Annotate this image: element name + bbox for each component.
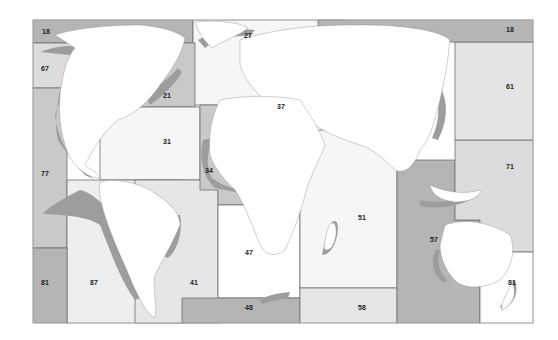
area-label: 41 xyxy=(190,279,198,286)
fishing-areas-map: 18 67 21 27 18 61 31 37 77 34 71 51 57 4… xyxy=(0,0,558,340)
area-label: 18 xyxy=(42,28,50,35)
area-label: 48 xyxy=(245,304,253,311)
area-label: 18 xyxy=(506,26,514,33)
area-label: 61 xyxy=(506,83,514,90)
area-label: 81 xyxy=(508,279,516,286)
area-label: 57 xyxy=(430,236,438,243)
area-label: 27 xyxy=(244,32,252,39)
area-label: 81 xyxy=(41,279,49,286)
area-label: 87 xyxy=(90,279,98,286)
area-label: 47 xyxy=(245,249,253,256)
area-label: 58 xyxy=(358,304,366,311)
area-label: 51 xyxy=(358,214,366,221)
area-label: 31 xyxy=(163,138,171,145)
zone-61[interactable] xyxy=(455,42,533,140)
zone-81-west[interactable] xyxy=(33,248,67,323)
area-label: 21 xyxy=(163,92,171,99)
area-label: 77 xyxy=(41,170,49,177)
zone-58[interactable] xyxy=(300,288,397,323)
area-label: 67 xyxy=(41,65,49,72)
area-label: 71 xyxy=(506,163,514,170)
zone-48[interactable] xyxy=(182,298,300,323)
area-label: 37 xyxy=(277,103,285,110)
area-label: 34 xyxy=(205,167,213,174)
